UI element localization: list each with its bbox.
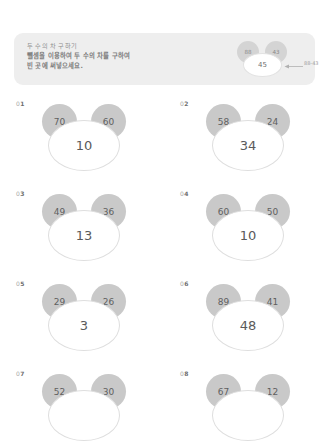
problem-item-03: 03 49 36 13 xyxy=(0,185,164,275)
instruction-banner: 두 수의 차 구하기 뺄셈을 이용하여 두 수의 차를 구하여 빈 곳에 써넣으… xyxy=(14,33,315,85)
example-expression-label: 88-43 xyxy=(304,60,319,66)
instruction-line-1: 뺄셈을 이용하여 두 수의 차를 구하여 xyxy=(27,51,177,61)
answer-oval[interactable]: 10 xyxy=(48,120,120,171)
problem-row: 05 29 26 3 06 89 41 48 xyxy=(0,275,329,365)
bear-figure: 70 60 10 xyxy=(38,104,148,178)
problem-number: 01 xyxy=(16,100,25,107)
bear-figure: 67 12 xyxy=(202,374,312,445)
problem-item-07: 07 52 30 xyxy=(0,365,164,445)
bear-figure: 58 24 34 xyxy=(202,104,312,178)
problem-number: 07 xyxy=(16,370,25,377)
answer-oval[interactable]: 3 xyxy=(48,300,120,351)
bear-figure: 29 26 3 xyxy=(38,284,148,358)
problem-row: 01 70 60 10 02 58 24 34 xyxy=(0,95,329,185)
problem-number: 04 xyxy=(180,190,189,197)
example-answer: 45 xyxy=(243,53,282,77)
worksheet-title: 두 수의 차 구하기 xyxy=(27,40,177,51)
problem-number: 02 xyxy=(180,100,189,107)
problem-item-06: 06 89 41 48 xyxy=(164,275,328,365)
answer-oval[interactable]: 34 xyxy=(212,120,284,171)
arrow-left-icon xyxy=(284,63,304,70)
problem-row: 03 49 36 13 04 60 50 10 xyxy=(0,185,329,275)
problem-row: 07 52 30 08 67 12 xyxy=(0,365,329,445)
problem-item-01: 01 70 60 10 xyxy=(0,95,164,185)
answer-oval[interactable] xyxy=(212,390,284,441)
answer-oval[interactable]: 13 xyxy=(48,210,120,261)
answer-oval[interactable]: 10 xyxy=(212,210,284,261)
problem-number: 08 xyxy=(180,370,189,377)
problem-item-04: 04 60 50 10 xyxy=(164,185,328,275)
instruction-line-2: 빈 곳에 써넣으세요. xyxy=(27,61,177,71)
answer-oval[interactable]: 48 xyxy=(212,300,284,351)
problem-grid: 01 70 60 10 02 58 24 34 03 49 36 13 xyxy=(0,95,329,445)
example-figure: 88 43 45 88-43 xyxy=(226,37,314,81)
bear-figure: 60 50 10 xyxy=(202,194,312,268)
problem-item-02: 02 58 24 34 xyxy=(164,95,328,185)
bear-figure: 49 36 13 xyxy=(38,194,148,268)
problem-number: 03 xyxy=(16,190,25,197)
problem-number: 05 xyxy=(16,280,25,287)
problem-item-05: 05 29 26 3 xyxy=(0,275,164,365)
bear-figure: 89 41 48 xyxy=(202,284,312,358)
instruction-text-block: 두 수의 차 구하기 뺄셈을 이용하여 두 수의 차를 구하여 빈 곳에 써넣으… xyxy=(27,40,177,71)
problem-item-08: 08 67 12 xyxy=(164,365,328,445)
answer-oval[interactable] xyxy=(48,390,120,441)
problem-number: 06 xyxy=(180,280,189,287)
bear-figure: 52 30 xyxy=(38,374,148,445)
